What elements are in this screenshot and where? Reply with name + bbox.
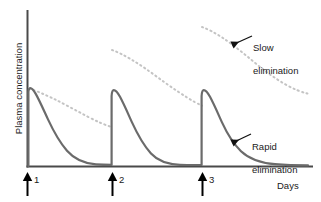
pharmacokinetics-chart: Plasma concentration Days 1 2 3 Slow eli… (0, 0, 321, 202)
slow-annotation-arrow (232, 36, 252, 45)
dose-label-2: 2 (119, 174, 124, 185)
dose-arrow-2 (108, 172, 117, 196)
rapid-elimination-annotation-line1: Rapid (252, 141, 297, 153)
rapid-annotation-arrow (232, 134, 251, 143)
rapid-elimination-annotation-line2: elimination (252, 164, 297, 176)
dose-arrow-1 (23, 172, 32, 196)
dose-label-1: 1 (34, 174, 39, 185)
dose-arrow-3 (198, 172, 207, 196)
dose-markers (23, 172, 207, 196)
slow-elimination-annotation-line1: Slow (253, 42, 298, 54)
rapid-elimination-annotation: Rapid elimination (252, 129, 297, 187)
y-axis-label: Plasma concentration (13, 24, 24, 154)
slow-elimination-annotation-line2: elimination (253, 65, 298, 77)
dose-label-3: 3 (209, 174, 214, 185)
slow-elimination-annotation: Slow elimination (253, 30, 298, 88)
